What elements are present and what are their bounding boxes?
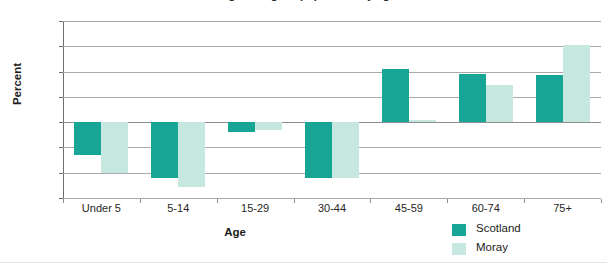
bar-scotland-15-29[interactable] [228,122,255,132]
bar-group [370,21,447,198]
bar-scotland-75[interactable] [536,75,563,122]
bar-moray-45-59[interactable] [409,120,436,123]
x-tick-label-5-14: 5-14 [140,202,217,214]
y-tick-mark-30 [59,46,63,47]
bar-moray-60-74[interactable] [486,85,513,122]
bar-group [447,21,524,198]
bar-scotland-under-5[interactable] [74,122,101,155]
bar-scotland-60-74[interactable] [459,74,486,122]
y-tick-mark--10 [59,147,63,148]
bar-scotland-5-14[interactable] [151,122,178,178]
page-bottom-rule [0,262,607,263]
chart-title: Percentage change in population by age b… [0,0,607,2]
y-axis-title: Percent [11,44,23,124]
plot-area [63,21,601,198]
y-tick-mark-40 [59,21,63,22]
y-tick-mark--20 [59,173,63,174]
bar-moray-under-5[interactable] [101,122,128,173]
bar-group [63,21,140,198]
bar-group [294,21,371,198]
bar-scotland-30-44[interactable] [305,122,332,178]
x-tick-mark [601,199,602,203]
x-axis-title: Age [0,226,470,238]
bar-moray-5-14[interactable] [178,122,205,186]
x-tick-label-60-74: 60-74 [447,202,524,214]
legend-label-moray: Moray [476,241,508,253]
x-tick-label-45-59: 45-59 [370,202,447,214]
x-tick-label-30-44: 30-44 [294,202,371,214]
bar-moray-30-44[interactable] [332,122,359,178]
y-tick-mark-20 [59,72,63,73]
bar-moray-75[interactable] [563,45,590,122]
gridline--30 [63,198,601,199]
legend-swatch-moray-icon [452,243,466,255]
bar-scotland-45-59[interactable] [382,69,409,122]
bar-group [524,21,601,198]
bar-group [217,21,294,198]
bar-moray-15-29[interactable] [255,122,282,130]
y-tick-mark-0 [59,122,63,123]
x-tick-label-15-29: 15-29 [217,202,294,214]
x-tick-label-75: 75+ [524,202,601,214]
legend-swatch-scotland-icon [452,224,466,236]
x-tick-label-under-5: Under 5 [63,202,140,214]
legend-label-scotland: Scotland [476,222,521,234]
bar-group [140,21,217,198]
bar-chart: Percentage change in population by age b… [0,0,607,264]
y-tick-mark-10 [59,97,63,98]
